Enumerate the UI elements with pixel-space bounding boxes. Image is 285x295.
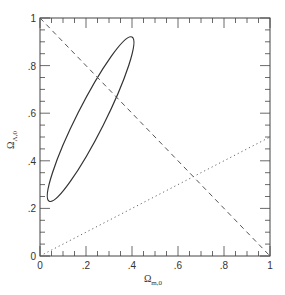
y-tick-label: .4 — [28, 156, 37, 167]
x-tick-label: 0 — [37, 260, 43, 271]
x-tick-label: 1 — [267, 260, 273, 271]
x-tick-label: .4 — [128, 260, 137, 271]
chart: 0.2.4.6.810.2.4.6.81 Ωm,0 ΩΛ,0 — [0, 0, 285, 295]
y-tick-label: .8 — [28, 61, 37, 72]
y-tick-label: 1 — [30, 13, 36, 24]
x-tick-label: .2 — [82, 260, 91, 271]
x-tick-label: .8 — [220, 260, 229, 271]
y-tick-label: .2 — [28, 203, 37, 214]
y-tick-label: 0 — [30, 251, 36, 262]
x-axis-label: Ωm,0 — [144, 273, 163, 287]
confidence-ellipse — [37, 31, 145, 208]
deceleration-zero-line — [40, 137, 270, 256]
y-axis-label: ΩΛ,0 — [5, 131, 19, 149]
flat-universe-line — [40, 18, 270, 256]
y-tick-label: .6 — [28, 108, 37, 119]
series-layer — [37, 18, 270, 256]
x-tick-label: .6 — [174, 260, 183, 271]
